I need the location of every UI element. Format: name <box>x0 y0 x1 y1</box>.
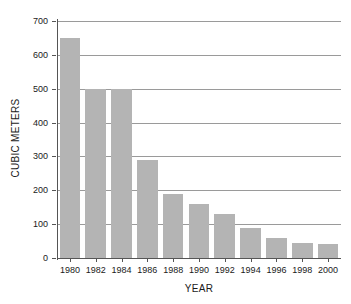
bar-chart-figure: CUBIC METERS 0100200300400500600700 1980… <box>0 0 351 304</box>
x-axis-tick-mark <box>251 259 252 262</box>
bar <box>60 38 81 258</box>
bar <box>214 214 235 258</box>
y-axis-tick-mark <box>52 123 56 124</box>
bar <box>266 238 287 258</box>
y-axis-tick-label: 600 <box>8 51 48 60</box>
x-axis-title: YEAR <box>57 283 341 294</box>
x-axis-tick-mark <box>276 259 277 262</box>
y-axis-tick-mark <box>52 156 56 157</box>
bar <box>163 194 184 258</box>
x-axis-tick-mark <box>199 259 200 262</box>
y-axis-tick-label: 0 <box>8 254 48 263</box>
y-axis-tick-label: 100 <box>8 220 48 229</box>
x-axis-tick-mark <box>147 259 148 262</box>
bar <box>85 89 106 258</box>
y-axis-tick-mark <box>52 55 56 56</box>
x-axis-tick-mark <box>96 259 97 262</box>
y-axis-tick-mark <box>52 190 56 191</box>
bar <box>292 243 313 258</box>
x-axis-tick-mark <box>122 259 123 262</box>
bars-group <box>57 21 341 258</box>
x-axis-tick-mark <box>225 259 226 262</box>
bar <box>189 204 210 258</box>
bar <box>111 89 132 258</box>
y-axis-tick-mark <box>52 224 56 225</box>
x-axis-tick-mark <box>302 259 303 262</box>
y-axis-tick-mark <box>52 89 56 90</box>
y-axis-tick-mark <box>52 21 56 22</box>
bar <box>318 244 339 258</box>
x-axis-tick-mark <box>70 259 71 262</box>
y-axis-tick-label: 200 <box>8 186 48 195</box>
y-axis-tick-label: 400 <box>8 119 48 128</box>
y-axis-tick-label: 500 <box>8 85 48 94</box>
y-axis-tick-label: 300 <box>8 152 48 161</box>
y-axis-tick-label: 700 <box>8 17 48 26</box>
x-axis-tick-label: 2000 <box>313 265 343 275</box>
x-axis-tick-mark <box>328 259 329 262</box>
bar <box>240 228 261 258</box>
y-axis-tick-mark <box>52 258 56 259</box>
bar <box>137 160 158 258</box>
x-axis-tick-mark <box>173 259 174 262</box>
